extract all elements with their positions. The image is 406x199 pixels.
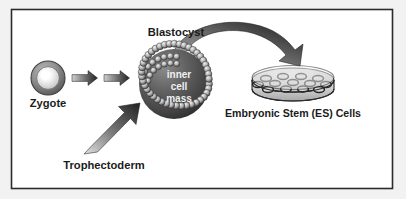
icm-line-2: cell	[171, 81, 188, 92]
petri-dish-group	[252, 66, 334, 102]
figure-canvas: inner cell mass	[0, 0, 406, 199]
icm-line-3: mass	[166, 93, 192, 104]
dish-rim-highlight	[252, 66, 334, 90]
icm-line-1: inner	[167, 69, 192, 80]
zygote-group	[31, 61, 65, 95]
trophectoderm-label: Trophectoderm	[63, 159, 144, 171]
zygote-highlight	[40, 70, 50, 80]
blastocyst-label: Blastocyst	[148, 26, 205, 38]
es-cells-label: Embryonic Stem (ES) Cells	[225, 107, 361, 119]
figure-root: inner cell mass	[0, 0, 406, 199]
zygote-label: Zygote	[30, 97, 67, 109]
stem-cell-diagram: inner cell mass	[0, 0, 406, 199]
